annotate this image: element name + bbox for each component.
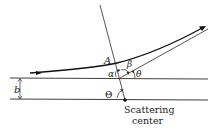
scattering-center-dot xyxy=(123,98,127,102)
label-beta: β xyxy=(126,59,132,69)
label-b: b xyxy=(14,84,20,95)
label-point-a: A xyxy=(103,55,111,66)
label-Theta: Θ xyxy=(105,90,112,100)
label-scattering: Scattering xyxy=(124,104,175,115)
particle-trajectory xyxy=(30,27,204,73)
label-theta: θ xyxy=(136,69,142,79)
label-center: center xyxy=(132,115,164,126)
alpha-arrow-icon xyxy=(118,69,121,72)
scattering-diagram: A α β θ Θ b Scattering center xyxy=(0,0,217,131)
apsidal-line xyxy=(100,5,125,100)
label-alpha: α xyxy=(108,69,114,79)
